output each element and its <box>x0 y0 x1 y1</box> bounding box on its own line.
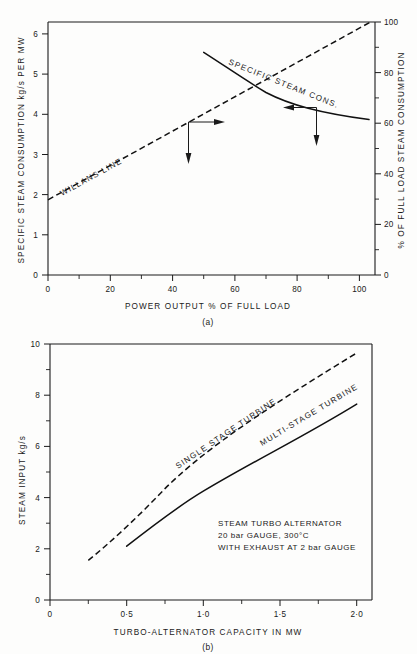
y-axis-title-b: STEAM INPUT kg/s <box>18 435 27 525</box>
y-left-axis-a: 0 1 2 3 4 5 6 <box>33 30 48 280</box>
willans-line-label: WILLANS LINE <box>59 156 124 197</box>
y-left-tick-label-4: 4 <box>33 110 38 119</box>
y-tick-label-b-6: 6 <box>35 442 40 451</box>
y-right-tick-label-80: 80 <box>384 69 394 78</box>
x-tick-label-a-80: 80 <box>292 285 302 294</box>
y-tick-label-b-0: 0 <box>35 596 40 605</box>
note-line-1: STEAM TURBO ALTERNATOR <box>218 519 342 528</box>
y-right-axis-title-a: % OF FULL LOAD STEAM CONSUMPTION <box>397 52 406 249</box>
y-left-tick-label-6: 6 <box>33 30 38 39</box>
plot-frame-b <box>50 344 372 600</box>
y-left-axis-title-a: SPECIFIC STEAM CONSUMPTION kg/s PER MW <box>17 37 26 264</box>
annotation-arrow-left-axis <box>186 119 225 164</box>
x-axis-b: 0 0·5 1·0 1·5 2·0 <box>48 600 364 619</box>
chart-panel-b: 0 2 4 6 8 10 0 0·5 1·0 1· <box>0 330 417 654</box>
y-left-tick-label-1: 1 <box>33 231 38 240</box>
x-tick-label-b-15: 1·5 <box>274 610 287 619</box>
chart-a-svg: 0 1 2 3 4 5 6 0 <box>0 0 417 330</box>
x-tick-label-a-100: 100 <box>352 285 367 294</box>
x-tick-label-b-10: 1·0 <box>197 610 210 619</box>
chart-b-svg: 0 2 4 6 8 10 0 0·5 1·0 1· <box>0 330 417 654</box>
x-tick-label-a-0: 0 <box>46 285 51 294</box>
y-right-tick-label-20: 20 <box>384 220 394 229</box>
y-left-tick-label-2: 2 <box>33 191 38 200</box>
panel-caption-b: (b) <box>202 642 213 652</box>
y-tick-label-b-8: 8 <box>35 391 40 400</box>
x-tick-label-a-20: 20 <box>106 285 116 294</box>
y-right-tick-label-0: 0 <box>384 271 389 280</box>
note-line-3: WITH EXHAUST AT 2 bar GAUGE <box>218 543 356 552</box>
y-right-tick-label-60: 60 <box>384 119 394 128</box>
y-right-axis-a: 0 20 40 60 80 100 <box>375 18 399 280</box>
x-axis-a: 0 20 40 60 80 100 <box>46 275 367 294</box>
x-axis-title-b: TURBO-ALTERNATOR CAPACITY IN MW <box>114 628 303 637</box>
x-tick-label-a-40: 40 <box>168 285 178 294</box>
note-line-2: 20 bar GAUGE, 300°C <box>218 531 309 540</box>
x-tick-label-a-60: 60 <box>230 285 240 294</box>
multi-stage-turbine-label: MULTI-STAGE TURBINE <box>258 382 359 448</box>
y-left-tick-label-5: 5 <box>33 70 38 79</box>
chart-panel-a: 0 1 2 3 4 5 6 0 <box>0 0 417 330</box>
single-stage-turbine-curve <box>88 353 356 560</box>
chart-b-note: STEAM TURBO ALTERNATOR 20 bar GAUGE, 300… <box>218 519 356 552</box>
y-tick-label-b-4: 4 <box>35 494 40 503</box>
y-left-tick-label-3: 3 <box>33 151 38 160</box>
x-tick-label-b-20: 2·0 <box>350 610 363 619</box>
single-stage-turbine-label: SINGLE STAGE TURBINE <box>174 396 278 470</box>
panel-caption-a: (a) <box>202 317 213 327</box>
x-tick-label-b-0: 0 <box>48 610 53 619</box>
y-tick-label-b-10: 10 <box>30 340 40 349</box>
y-right-tick-label-100: 100 <box>384 18 399 27</box>
figure-page: 0 1 2 3 4 5 6 0 <box>0 0 417 654</box>
annotation-arrow-right-axis <box>283 105 319 146</box>
x-tick-label-b-05: 0·5 <box>120 610 133 619</box>
y-axis-b: 0 2 4 6 8 10 <box>30 340 50 605</box>
y-tick-label-b-2: 2 <box>35 545 40 554</box>
specific-steam-cons-label: SPECIFIC STEAM CONS. <box>227 58 340 111</box>
y-left-tick-label-0: 0 <box>33 271 38 280</box>
y-right-tick-label-40: 40 <box>384 170 394 179</box>
x-axis-title-a: POWER OUTPUT % OF FULL LOAD <box>125 302 291 311</box>
plot-frame-a <box>48 22 375 275</box>
